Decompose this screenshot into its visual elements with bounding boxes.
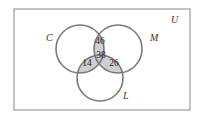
set-label-m: M <box>150 32 158 43</box>
universe-label: U <box>171 14 178 25</box>
region-value-c-l: 14 <box>82 58 92 68</box>
set-label-l: L <box>123 90 129 101</box>
region-value-c-m: 46 <box>95 36 105 46</box>
region-value-m-l: 26 <box>109 58 119 68</box>
region-value-c-m-l: 38 <box>96 50 106 60</box>
set-label-c: C <box>46 32 53 43</box>
